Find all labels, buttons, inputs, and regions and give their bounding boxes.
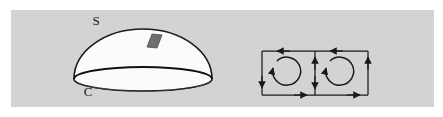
circulation-arrow-left	[273, 57, 301, 85]
circulation-arrow-right	[326, 57, 354, 85]
figure-root: S C	[0, 0, 443, 117]
dome-surface-shape	[74, 29, 212, 91]
boundary-label-c: C	[84, 84, 93, 99]
surface-label-s: S	[92, 13, 99, 28]
oriented-surface-diagram: S C	[74, 13, 212, 99]
figure-canvas: S C	[0, 0, 443, 117]
circulation-rectangles-diagram	[262, 51, 368, 95]
